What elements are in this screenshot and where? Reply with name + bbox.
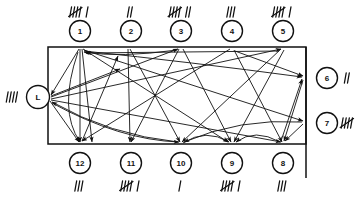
flow-arrow-L-to-3 — [51, 49, 178, 97]
node-label-6: 6 — [325, 74, 330, 83]
tally-marks-node-5 — [272, 7, 291, 17]
node-3[interactable]: 3 — [171, 21, 192, 42]
node-label-3: 3 — [179, 27, 184, 36]
flow-arrow-L-to-8 — [51, 100, 281, 142]
flow-diagram: 123456789101112L — [0, 0, 361, 203]
tally-marks-node-3 — [168, 7, 190, 17]
tally-marks-node-9 — [221, 181, 240, 191]
node-label-1: 1 — [78, 27, 83, 36]
node-7[interactable]: 7 — [317, 113, 338, 134]
flow-arrow-2-to-11 — [128, 49, 130, 142]
node-11[interactable]: 11 — [121, 153, 142, 174]
flow-arrow-6-to-8 — [284, 80, 303, 141]
node-label-8: 8 — [281, 159, 286, 168]
node-4[interactable]: 4 — [222, 21, 243, 42]
node-label-11: 11 — [127, 159, 136, 168]
node-label-9: 9 — [230, 159, 235, 168]
tally-marks-node-10 — [179, 181, 181, 191]
tally-marks-node-7 — [340, 118, 353, 128]
flow-arrow-10-to-9 — [183, 135, 229, 143]
tally-marks-node-8 — [278, 181, 286, 191]
node-label-10: 10 — [177, 159, 186, 168]
node-label-5: 5 — [281, 27, 286, 36]
flow-arrow-5-to-1 — [86, 51, 279, 53]
flow-arrow-8-to-6 — [281, 79, 302, 141]
node-L[interactable]: L — [27, 86, 50, 109]
diagram-canvas: 123456789101112L — [0, 0, 361, 203]
flow-arrow-1-to-12 — [68, 52, 80, 142]
tally-marks-node-L — [6, 92, 17, 102]
tally-marks-node-12 — [75, 181, 83, 191]
tally-marks-node-11 — [120, 181, 139, 191]
node-label-2: 2 — [129, 27, 134, 36]
node-8[interactable]: 8 — [273, 153, 294, 174]
flow-arrow-7-to-8 — [285, 124, 303, 141]
node-12[interactable]: 12 — [70, 153, 91, 174]
node-5[interactable]: 5 — [273, 21, 294, 42]
flow-arrow-layer — [50, 49, 303, 143]
tally-marks-node-2 — [127, 7, 132, 17]
flow-arrow-L-to-12 — [50, 101, 79, 142]
node-2[interactable]: 2 — [121, 21, 142, 42]
node-1[interactable]: 1 — [70, 21, 91, 42]
tally-marks-node-1 — [69, 7, 88, 17]
node-layer: 123456789101112L — [27, 21, 338, 174]
flow-arrow-1-to-7 — [84, 50, 303, 121]
node-label-12: 12 — [76, 159, 85, 168]
node-10[interactable]: 10 — [171, 153, 192, 174]
node-label-L: L — [36, 93, 41, 102]
node-9[interactable]: 9 — [222, 153, 243, 174]
flow-arrow-5-to-10 — [182, 49, 281, 142]
tally-marks-node-4 — [227, 7, 235, 17]
node-6[interactable]: 6 — [317, 68, 338, 89]
tally-marks-node-6 — [344, 73, 349, 83]
node-label-7: 7 — [325, 119, 330, 128]
node-label-4: 4 — [230, 27, 235, 36]
